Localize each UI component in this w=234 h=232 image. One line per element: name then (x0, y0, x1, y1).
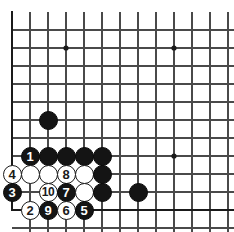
stone-white[interactable] (39, 165, 58, 184)
stone-white-move-10[interactable]: 10 (39, 183, 58, 202)
move-number-label: 8 (62, 168, 69, 181)
star-point (171, 153, 176, 158)
stone-black[interactable] (75, 147, 94, 166)
stone-white[interactable] (21, 165, 40, 184)
move-number-label: 4 (8, 168, 15, 181)
move-number-label: 7 (62, 186, 69, 199)
stone-black[interactable] (129, 183, 148, 202)
stone-black-move-7[interactable]: 7 (57, 183, 76, 202)
move-number-label: 10 (42, 186, 54, 198)
move-number-label: 2 (26, 204, 33, 217)
stone-black[interactable] (39, 147, 58, 166)
stone-black-move-3[interactable]: 3 (3, 183, 22, 202)
stone-black[interactable] (93, 147, 112, 166)
stone-white[interactable] (75, 183, 94, 202)
stone-black[interactable] (93, 183, 112, 202)
stone-black[interactable] (93, 165, 112, 184)
move-number-label: 6 (62, 204, 69, 217)
stone-white-move-8[interactable]: 8 (57, 165, 76, 184)
stone-white-move-2[interactable]: 2 (21, 201, 40, 220)
star-point (171, 45, 176, 50)
move-number-label: 9 (44, 204, 51, 217)
move-number-label: 5 (80, 204, 87, 217)
stone-black[interactable] (57, 147, 76, 166)
star-point (63, 45, 68, 50)
stone-black[interactable] (39, 111, 58, 130)
board-grid (0, 0, 234, 232)
move-number-label: 3 (8, 186, 15, 199)
stone-black-move-9[interactable]: 9 (39, 201, 58, 220)
go-board[interactable]: 14831072965 (0, 0, 234, 232)
move-number-label: 1 (26, 150, 33, 163)
stone-white-move-4[interactable]: 4 (3, 165, 22, 184)
stone-white[interactable] (75, 165, 94, 184)
stone-black-move-1[interactable]: 1 (21, 147, 40, 166)
stone-white-move-6[interactable]: 6 (57, 201, 76, 220)
stone-black-move-5[interactable]: 5 (75, 201, 94, 220)
